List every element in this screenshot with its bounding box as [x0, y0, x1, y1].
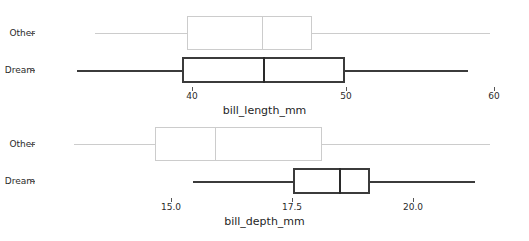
xtick-label-60: 60 — [488, 91, 499, 102]
xtick-label-20-0: 20.0 — [403, 202, 423, 213]
whisker-high-other-depth — [322, 144, 490, 145]
xtick-label-40: 40 — [186, 91, 197, 102]
box-other-length — [187, 16, 312, 50]
whisker-high-other-length — [312, 33, 490, 34]
median-other-depth — [215, 127, 216, 161]
plot-area-bill-depth: Other Dream 15.0 17.5 — [0, 115, 529, 241]
xtick-label-50: 50 — [340, 91, 351, 102]
box-other-depth — [155, 127, 322, 161]
whisker-low-other-length — [95, 33, 187, 34]
box-dream-depth — [293, 168, 370, 194]
ytick-dash-dream-length — [31, 70, 35, 71]
whisker-high-dream-depth — [370, 181, 475, 183]
plot-area-bill-length: Other Dream 40 50 — [0, 0, 529, 120]
whisker-low-dream-depth — [193, 181, 293, 183]
ytick-dash-other-length — [31, 33, 35, 34]
xaxis-title-bill-depth: bill_depth_mm — [0, 215, 529, 228]
panel-bill-length: Other Dream 40 50 — [0, 0, 529, 120]
whisker-low-dream-length — [77, 70, 182, 72]
median-other-length — [262, 16, 263, 50]
xtick-label-17-5: 17.5 — [282, 202, 302, 213]
boxplot-figure: Other Dream 40 50 — [0, 0, 529, 241]
whisker-low-other-depth — [74, 144, 155, 145]
ytick-dash-dream-depth — [31, 181, 35, 182]
whisker-high-dream-length — [345, 70, 468, 72]
panel-bill-depth: Other Dream 15.0 17.5 — [0, 115, 529, 241]
xtick-label-15-0: 15.0 — [161, 202, 181, 213]
median-dream-depth — [339, 168, 341, 194]
ytick-dash-other-depth — [31, 144, 35, 145]
median-dream-length — [263, 57, 265, 83]
